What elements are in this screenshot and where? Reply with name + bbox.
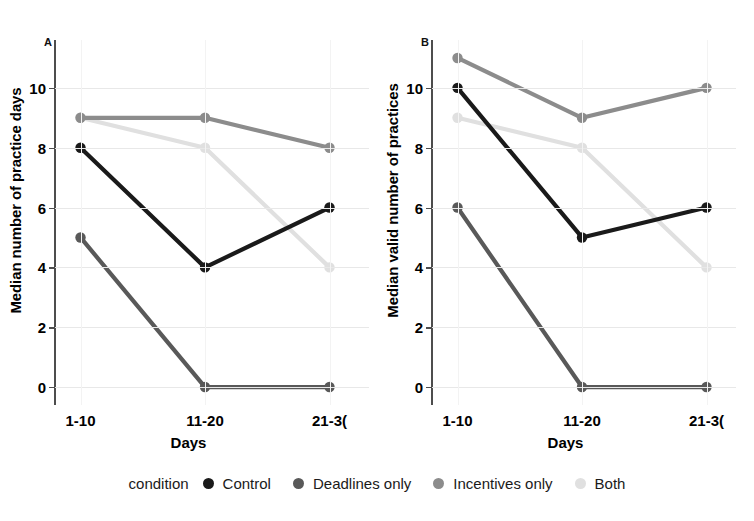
y-tick-label: 0 [38,380,46,395]
figure-container: A Median number of practice days 0246810… [0,0,754,521]
y-tick-mark [426,148,432,149]
legend-label-both: Both [595,475,626,492]
legend-item-deadlines-only[interactable]: Deadlines only [293,475,411,492]
y-tick-mark [49,267,55,268]
gridline-x [205,40,206,405]
legend-item-control[interactable]: Control [203,475,271,492]
legend: condition Control Deadlines only Incenti… [0,468,754,498]
legend-key-incentives-only [433,478,444,489]
legend-item-incentives-only[interactable]: Incentives only [433,475,552,492]
gridline-y [55,208,369,209]
y-tick-label: 6 [415,200,423,215]
gridline-y [55,327,369,328]
y-tick-label: 2 [38,320,46,335]
gridline-y [432,148,746,149]
y-tick-mark [426,327,432,328]
panels-row: A Median number of practice days 0246810… [0,0,754,462]
panel-a-plot-area: 02468101-1011-2021-3( [55,40,355,405]
y-tick-label: 4 [38,260,46,275]
y-tick-mark [49,387,55,388]
panel-a-letter: A [44,36,52,48]
gridline-y [432,208,746,209]
legend-key-deadlines-only [293,478,304,489]
panel-a-y-axis-title: Median number of practice days [2,0,28,400]
panel-a-x-axis-title: Days [0,434,377,451]
gridline-x [330,40,331,405]
panel-a: A Median number of practice days 0246810… [0,0,377,462]
gridline-y [432,387,746,388]
x-tick-label: 1-10 [442,412,472,429]
legend-key-control [203,478,214,489]
y-tick-mark [426,208,432,209]
y-tick-mark [426,88,432,89]
gridline-y [432,88,746,89]
panel-b-plot-area: 02468101-1011-2021-3( [432,40,732,405]
legend-label-deadlines-only: Deadlines only [313,475,411,492]
y-tick-label: 8 [415,140,423,155]
y-tick-label: 10 [29,80,46,95]
gridline-x [582,40,583,405]
x-tick-label: 11-20 [186,412,224,429]
panel-b: B Median valid number of practices 02468… [377,0,754,462]
x-tick-label: 1-10 [65,412,95,429]
y-tick-mark [49,208,55,209]
gridline-y [432,327,746,328]
legend-label-incentives-only: Incentives only [453,475,552,492]
panel-b-y-axis-title-text: Median valid number of practices [384,83,401,317]
gridline-y [432,267,746,268]
gridline-x [458,40,459,405]
legend-label-control: Control [223,475,271,492]
gridline-y [55,88,369,89]
y-tick-mark [49,88,55,89]
y-tick-label: 2 [415,320,423,335]
y-tick-label: 10 [406,80,423,95]
panel-b-x-axis-title: Days [377,434,754,451]
y-tick-label: 0 [415,380,423,395]
y-tick-mark [49,327,55,328]
y-tick-mark [49,148,55,149]
gridline-x [81,40,82,405]
gridline-y [55,267,369,268]
gridline-y [55,387,369,388]
y-tick-mark [426,387,432,388]
y-tick-mark [426,267,432,268]
right-edge-mask [736,0,754,462]
panel-b-y-axis-title: Median valid number of practices [379,0,405,400]
panel-b-letter: B [421,36,429,48]
panel-a-y-axis-title-text: Median number of practice days [7,87,24,313]
legend-item-both[interactable]: Both [575,475,626,492]
gridline-x [707,40,708,405]
x-tick-label: 21-3( [689,412,724,429]
x-tick-label: 11-20 [563,412,601,429]
y-tick-label: 6 [38,200,46,215]
y-tick-label: 4 [415,260,423,275]
x-tick-label: 21-3( [312,412,347,429]
y-tick-label: 8 [38,140,46,155]
legend-title: condition [129,475,189,492]
gridline-y [55,148,369,149]
legend-key-both [575,478,586,489]
